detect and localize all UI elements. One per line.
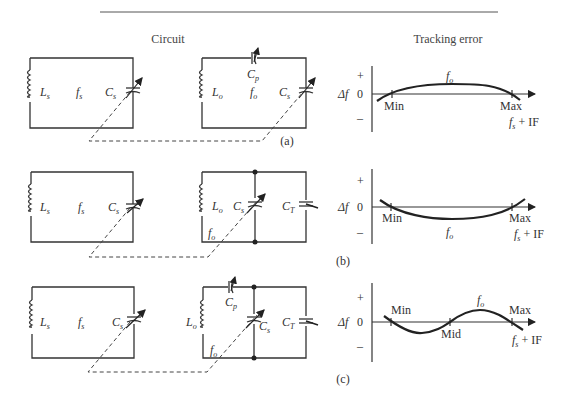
oscillator-circuit-b: Lo Cs CT fo: [200, 170, 319, 245]
plus-mark: +: [357, 69, 364, 83]
zero-mark: 0: [357, 200, 363, 214]
label-frequency: fo: [210, 343, 217, 359]
superhet-tracking-figure: Circuit Tracking error Ls fs Cs: [0, 0, 573, 408]
variable-capacitor-icon: [126, 310, 145, 328]
oscillator-circuit-c: Cp Lo Cs CT fo: [185, 277, 318, 361]
variable-capacitor-icon: [126, 199, 143, 213]
inductor-icon: [201, 300, 204, 327]
label-trimmer: CT: [282, 199, 295, 215]
rf-tank-circuit-c: Ls fs Cs: [30, 287, 146, 358]
inductor-icon: [29, 184, 32, 211]
inductor-icon: [30, 300, 33, 327]
marker-min: Min: [382, 211, 402, 225]
row-b: Ls fs Cs Lo Cs CT fo: [29, 169, 545, 268]
trimmer-capacitor-icon: [299, 319, 318, 325]
label-frequency: fs: [76, 85, 82, 101]
label-padder: Cp: [225, 295, 237, 311]
label-capacitor: Cs: [112, 315, 123, 331]
padder-capacitor-icon: [229, 277, 235, 293]
x-axis-label: fs + IF: [514, 227, 544, 243]
oscillator-circuit-a: Cp Lo fo Cs: [200, 48, 316, 128]
caption-c: (c): [336, 372, 349, 386]
label-inductor: Ls: [39, 315, 50, 331]
x-axis-label: fs + IF: [512, 333, 542, 349]
y-axis-label: Δf: [337, 200, 350, 214]
trimmer-capacitor-icon: [299, 202, 318, 208]
minus-mark: –: [356, 111, 364, 125]
minus-mark: –: [356, 339, 364, 353]
marker-max: Max: [509, 211, 531, 225]
caption-a: (a): [280, 134, 293, 148]
label-padder: Cp: [247, 67, 259, 83]
tracking-error-header: Tracking error: [413, 32, 482, 46]
zero-mark: 0: [357, 315, 363, 329]
curve-label: fo: [446, 69, 453, 85]
row-a: Ls fs Cs Cp Lo fo Cs: [28, 48, 540, 148]
marker-min: Min: [391, 303, 411, 317]
marker-mid: Mid: [441, 327, 461, 341]
label-capacitor: Cs: [105, 85, 116, 101]
gang-linkage: [89, 92, 303, 141]
curve-label: fo: [446, 225, 453, 241]
rf-tank-circuit-b: Ls fs Cs: [29, 172, 144, 242]
tracking-graph-a: Δf + 0 – fo Min Max fs + IF: [337, 66, 539, 132]
label-frequency: fo: [250, 85, 257, 101]
variable-capacitor-icon: [299, 78, 315, 98]
plus-mark: +: [357, 174, 364, 188]
padder-capacitor-icon: [252, 48, 258, 64]
label-inductor: Lo: [211, 85, 223, 101]
zero-mark: 0: [357, 87, 363, 101]
minus-mark: –: [356, 225, 364, 239]
variable-capacitor-icon: [126, 78, 142, 98]
label-frequency: fs: [78, 200, 84, 216]
inductor-icon: [28, 70, 31, 97]
rf-tank-circuit-a: Ls fs Cs: [28, 58, 143, 128]
y-axis-label: Δf: [337, 87, 350, 101]
label-trimmer: CT: [282, 315, 295, 331]
plus-mark: +: [357, 291, 364, 305]
circuit-header: Circuit: [151, 32, 185, 46]
tracking-graph-b: Δf + 0 – Min Max fo fs + IF: [337, 169, 544, 244]
caption-b: (b): [336, 254, 350, 268]
y-axis-label: Δf: [337, 315, 350, 329]
label-capacitor: Cs: [233, 199, 244, 215]
x-axis-label: fs + IF: [509, 115, 539, 131]
inductor-icon: [200, 184, 203, 211]
label-frequency: fo: [208, 226, 215, 242]
label-inductor: Lo: [185, 315, 197, 331]
tracking-graph-c: Δf + 0 – Min Mid Max fo fs + IF: [337, 283, 542, 362]
curve-label: fo: [477, 293, 484, 309]
label-frequency: fs: [78, 315, 84, 331]
label-inductor: Lo: [211, 199, 223, 215]
label-capacitor: Cs: [259, 319, 270, 335]
marker-min: Min: [384, 99, 404, 113]
label-capacitor: Cs: [279, 85, 290, 101]
label-inductor: Ls: [39, 85, 50, 101]
row-c: Ls fs Cs Cp: [30, 277, 543, 386]
label-inductor: Ls: [39, 200, 50, 216]
label-capacitor: Cs: [108, 200, 119, 216]
marker-max: Max: [500, 99, 522, 113]
inductor-icon: [200, 70, 203, 97]
marker-max: Max: [509, 303, 531, 317]
